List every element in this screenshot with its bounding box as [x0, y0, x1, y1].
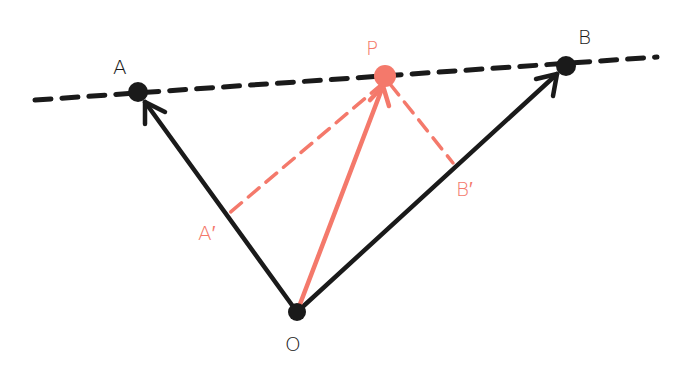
point-p	[374, 65, 396, 87]
label-b: B	[578, 25, 591, 49]
vector-ob	[297, 74, 557, 312]
point-b	[556, 56, 576, 76]
dashed-p-to-b-prime	[390, 84, 453, 163]
label-a: A	[113, 55, 127, 79]
label-p: P	[366, 36, 378, 60]
label-a-prime: A′	[198, 221, 216, 245]
label-b-prime: B′	[456, 177, 473, 201]
label-o: O	[285, 332, 301, 356]
point-o	[288, 303, 306, 321]
vector-oa	[145, 102, 297, 312]
point-a	[128, 82, 148, 102]
vector-diagram: A B P O A′ B′	[0, 0, 683, 375]
